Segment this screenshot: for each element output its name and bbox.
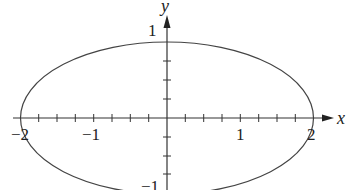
x-tick-label-pos1: 1 — [236, 125, 245, 144]
x-tick-label-pos2: 2 — [307, 125, 316, 144]
x-axis-label: x — [336, 108, 345, 128]
y-tick-label-pos1: 1 — [148, 21, 157, 40]
y-tick-label-neg1: −1 — [141, 177, 159, 190]
ellipse-diagram: x y −2 −1 1 2 1 −1 — [0, 0, 351, 190]
x-axis-arrow-icon — [322, 115, 334, 122]
y-axis-label: y — [159, 0, 169, 16]
x-tick-label-neg2: −2 — [11, 125, 29, 144]
x-tick-label-neg1: −1 — [82, 125, 100, 144]
y-axis-arrow-icon — [164, 15, 171, 28]
